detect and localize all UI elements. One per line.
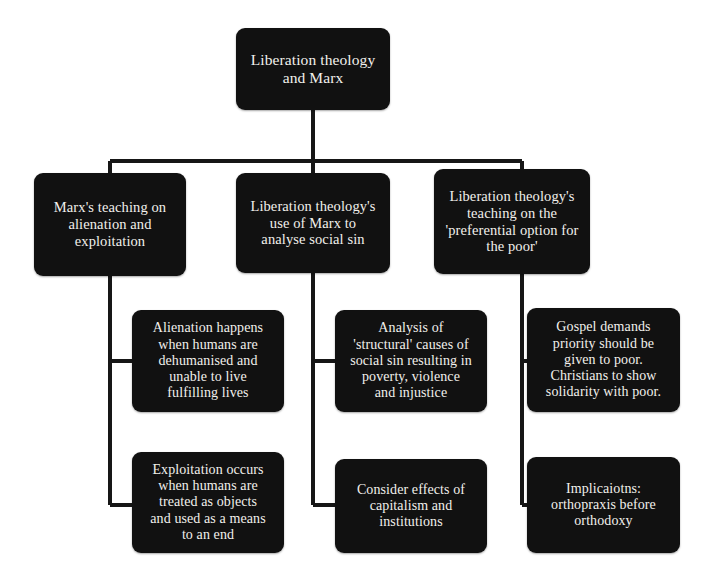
node-branch-preferential-option-label: Liberation theology's teaching on the 'p…: [445, 188, 578, 255]
diagram-canvas: Liberation theology and Marx Marx's teac…: [0, 0, 708, 582]
node-leaf-capitalism[interactable]: Consider effects of capitalism and insti…: [335, 459, 487, 553]
node-leaf-structural-causes[interactable]: Analysis of 'structural' causes of socia…: [335, 310, 487, 412]
node-branch-use-of-marx[interactable]: Liberation theology's use of Marx to ana…: [236, 173, 390, 273]
node-branch-marx-teaching-label: Marx's teaching on alienation and exploi…: [54, 199, 166, 249]
node-leaf-exploitation[interactable]: Exploitation occurs when humans are trea…: [132, 452, 284, 553]
node-leaf-implications[interactable]: Implicaiotns: orthopraxis before orthodo…: [527, 457, 680, 553]
node-root[interactable]: Liberation theology and Marx: [236, 28, 390, 110]
node-leaf-capitalism-label: Consider effects of capitalism and insti…: [357, 482, 465, 531]
node-leaf-gospel-demands-label: Gospel demands priority should be given …: [546, 319, 661, 400]
node-root-label: Liberation theology and Marx: [251, 51, 376, 87]
node-leaf-exploitation-label: Exploitation occurs when humans are trea…: [150, 462, 265, 543]
node-branch-marx-teaching[interactable]: Marx's teaching on alienation and exploi…: [34, 173, 186, 276]
node-leaf-structural-causes-label: Analysis of 'structural' causes of socia…: [350, 320, 472, 401]
node-leaf-gospel-demands[interactable]: Gospel demands priority should be given …: [527, 308, 680, 412]
node-branch-use-of-marx-label: Liberation theology's use of Marx to ana…: [250, 198, 375, 248]
node-branch-preferential-option[interactable]: Liberation theology's teaching on the 'p…: [434, 169, 590, 274]
node-leaf-alienation[interactable]: Alienation happens when humans are dehum…: [132, 310, 284, 412]
node-leaf-implications-label: Implicaiotns: orthopraxis before orthodo…: [551, 481, 656, 530]
node-leaf-alienation-label: Alienation happens when humans are dehum…: [153, 320, 263, 401]
